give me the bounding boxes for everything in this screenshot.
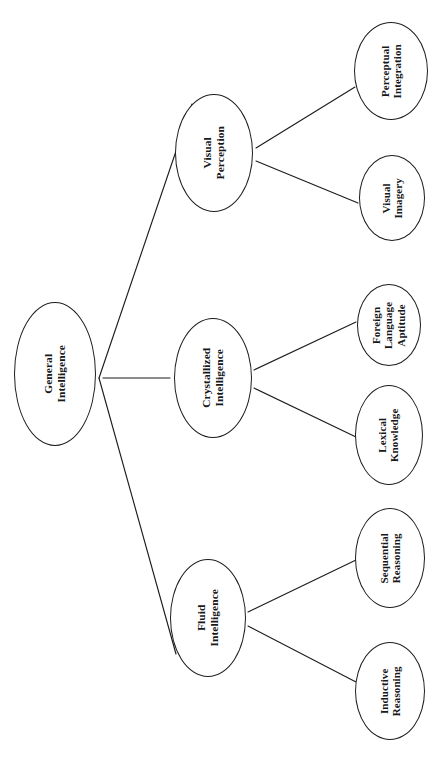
node-label-lexical-knowledge: Lexical Knowledge (377, 408, 402, 461)
node-crystallized-intelligence[interactable]: Crystallized Intelligence (174, 318, 252, 438)
node-label-general-intelligence: General Intelligence (42, 345, 68, 403)
node-fluid-intelligence[interactable]: Fluid Intelligence (170, 559, 246, 677)
node-label-foreign-language-aptitude: Foreign Language Aptitude (371, 301, 408, 348)
node-sequential-reasoning[interactable]: Sequential Reasoning (355, 508, 425, 608)
node-label-crystallized-intelligence: Crystallized Intelligence (200, 348, 226, 408)
node-general-intelligence[interactable]: General Intelligence (14, 302, 96, 446)
diagram-canvas: General IntelligenceVisual PerceptionCry… (0, 0, 436, 780)
edge-root-fluid (99, 378, 176, 654)
node-label-perceptual-integration: Perceptual Integration (379, 44, 404, 98)
edge-vp-visual-imagery (256, 161, 358, 203)
edge-fi-sequential-reasoning (248, 560, 356, 612)
edge-fi-inductive-reasoning (248, 626, 356, 682)
node-label-fluid-intelligence: Fluid Intelligence (195, 589, 221, 647)
edge-vp-perceptual-integration (256, 87, 355, 148)
node-visual-perception[interactable]: Visual Perception (175, 94, 253, 212)
node-label-inductive-reasoning: Inductive Reasoning (378, 666, 403, 716)
node-visual-imagery[interactable]: Visual Imagery (359, 155, 425, 241)
edge-ci-foreign-language (254, 322, 356, 370)
node-foreign-language-aptitude[interactable]: Foreign Language Aptitude (357, 284, 421, 366)
node-inductive-reasoning[interactable]: Inductive Reasoning (355, 642, 425, 740)
node-label-visual-perception: Visual Perception (201, 126, 227, 179)
node-lexical-knowledge[interactable]: Lexical Knowledge (355, 385, 423, 485)
node-perceptual-integration[interactable]: Perceptual Integration (354, 22, 428, 120)
edge-ci-lexical-knowledge (254, 388, 356, 437)
node-label-sequential-reasoning: Sequential Reasoning (378, 533, 403, 584)
node-label-visual-imagery: Visual Imagery (380, 178, 405, 218)
